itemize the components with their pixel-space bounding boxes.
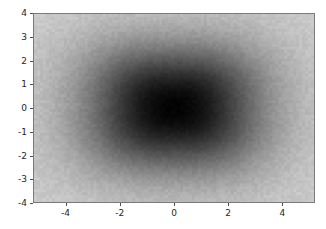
y-tick-mark xyxy=(30,156,33,157)
figure-canvas: -4-202443210-1-2-3-4 xyxy=(0,0,326,229)
y-tick-mark xyxy=(30,203,33,204)
x-tick-mark xyxy=(282,203,283,206)
x-tick-label: -2 xyxy=(115,208,124,218)
x-tick-mark xyxy=(120,203,121,206)
y-tick-mark xyxy=(30,61,33,62)
y-tick-mark xyxy=(30,37,33,38)
y-tick-label: -2 xyxy=(0,151,27,161)
y-tick-mark xyxy=(30,13,33,14)
y-tick-label: 3 xyxy=(0,32,27,42)
x-tick-mark xyxy=(66,203,67,206)
y-tick-label: -4 xyxy=(0,198,27,208)
y-tick-mark xyxy=(30,84,33,85)
y-tick-label: -1 xyxy=(0,127,27,137)
y-tick-label: 0 xyxy=(0,103,27,113)
x-tick-mark xyxy=(228,203,229,206)
x-tick-label: 2 xyxy=(225,208,231,218)
y-tick-label: -3 xyxy=(0,174,27,184)
heatmap-axes[interactable] xyxy=(33,13,315,203)
y-tick-label: 4 xyxy=(0,8,27,18)
y-tick-mark xyxy=(30,179,33,180)
y-tick-mark xyxy=(30,108,33,109)
x-tick-label: 0 xyxy=(171,208,177,218)
y-tick-label: 2 xyxy=(0,56,27,66)
y-tick-mark xyxy=(30,132,33,133)
x-tick-mark xyxy=(174,203,175,206)
heatmap-image xyxy=(34,14,314,202)
y-tick-label: 1 xyxy=(0,79,27,89)
x-tick-label: -4 xyxy=(61,208,70,218)
x-tick-label: 4 xyxy=(280,208,286,218)
